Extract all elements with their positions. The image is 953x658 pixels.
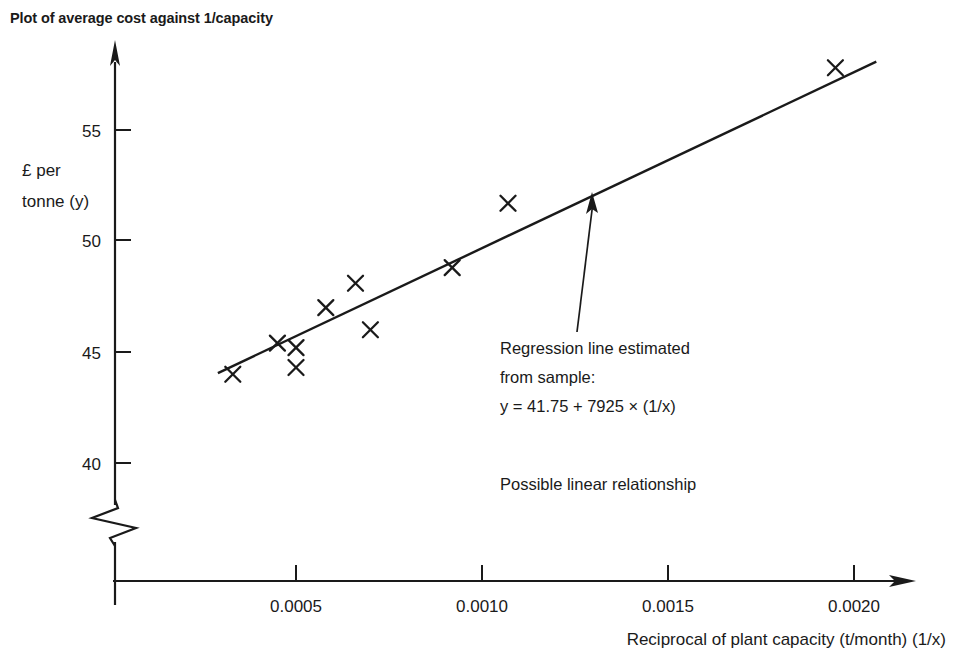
y-tick-marks: [115, 130, 131, 463]
data-point-marker: [828, 60, 843, 75]
x-tick-label-3: 0.0020: [828, 597, 880, 616]
y-tick-label-55: 55: [82, 122, 101, 141]
scatter-plot: 55 50 45 40 £ per tonne (y) 0.0005 0.001…: [0, 0, 953, 658]
x-axis-label: Reciprocal of plant capacity (t/month) (…: [627, 630, 946, 649]
callout-pointer: [577, 192, 598, 332]
regression-callout-line2: from sample:: [500, 368, 595, 386]
data-point-marker: [501, 196, 516, 211]
x-tick-label-1: 0.0010: [456, 597, 508, 616]
y-tick-label-40: 40: [82, 455, 101, 474]
data-point-marker: [363, 322, 378, 337]
y-axis-label-line2: tonne (y): [22, 192, 89, 211]
regression-callout-equation: y = 41.75 + 7925 × (1/x): [500, 397, 676, 415]
data-point-marker: [318, 300, 333, 315]
y-axis-label-line1: £ per: [22, 161, 61, 180]
data-point-marker: [289, 360, 304, 375]
y-tick-label-45: 45: [82, 344, 101, 363]
data-point-marker: [225, 367, 240, 382]
data-point-marker: [289, 340, 304, 355]
x-tick-label-2: 0.0015: [642, 597, 694, 616]
data-point-markers: [225, 60, 843, 381]
x-tick-marks: [296, 565, 854, 581]
regression-callout-line1: Regression line estimated: [500, 339, 690, 357]
data-point-marker: [348, 276, 363, 291]
relationship-note: Possible linear relationship: [500, 475, 696, 493]
regression-line: [218, 62, 876, 373]
y-axis-break-symbol: [92, 500, 136, 546]
x-axis: [113, 575, 916, 587]
y-tick-label-50: 50: [82, 232, 101, 251]
x-tick-label-0: 0.0005: [270, 597, 322, 616]
